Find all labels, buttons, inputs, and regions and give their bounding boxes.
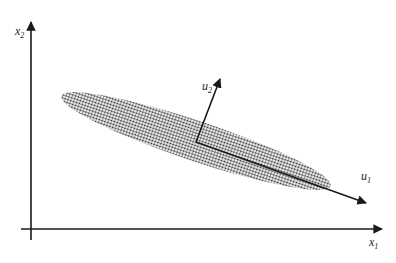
- pca-diagram: x2 x1 u2 u1: [0, 0, 396, 263]
- u2-label: u2: [202, 79, 212, 95]
- u1-label: u1: [361, 169, 371, 185]
- x-axis-label: x1: [368, 235, 378, 251]
- y-axis-label: x2: [14, 24, 24, 40]
- u1-vector: [196, 142, 366, 203]
